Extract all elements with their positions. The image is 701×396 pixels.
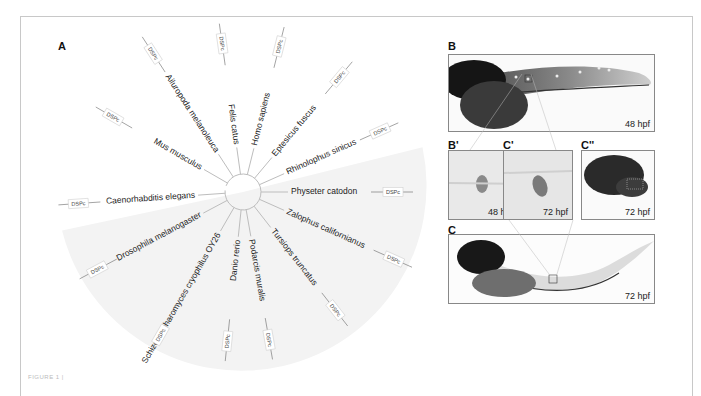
panel-b-label: B [448,40,456,52]
stage-label-c-double-prime: 72 hpf [625,207,650,217]
panel-c-image: 72 hpf [448,234,655,304]
dspc-gene-tag: DSPc [102,108,124,126]
panel-b-image: 48 hpf [448,54,655,132]
taxon-label: Eptesicus fuscus [269,103,318,158]
dspc-gene-tag: DSPc [216,33,228,54]
panel-c-double-prime-image: 72 hpf [581,150,655,220]
dspc-gene-tag: DSPc [222,331,233,352]
stage-label-b: 48 hpf [625,119,650,129]
phylogenetic-tree: Mus musculusDSPcAiluropoda melanoleucaDS… [0,0,440,380]
taxon-label: Mus musculus [152,136,204,172]
dspc-gene-tag: DSPc [273,36,287,58]
svg-text:DSPc: DSPc [71,200,86,207]
dspc-gene-tag: DSPc [68,198,89,208]
taxon-label: Physeter catodon [291,186,357,196]
svg-text:DSPc: DSPc [386,189,400,195]
stage-label-c-prime: 72 hpf [543,207,568,217]
panel-c-prime-image: 72 hpf [503,150,573,220]
taxon-label: Ailuropoda melanoleuca [164,72,222,154]
dspc-gene-tag: DSPc [330,67,350,88]
dspc-gene-tag: DSPc [369,123,391,139]
taxon-label: Homo sapiens [249,91,272,146]
figure-caption: FIGURE 1 | [28,374,64,380]
dspc-gene-tag: DSPc [144,43,162,65]
tree-leaf: Felis catusDSPc [216,24,242,175]
stage-label-c: 72 hpf [625,291,650,301]
taxon-label: Caenorhabditis elegans [106,190,196,206]
dspc-gene-tag: DSPc [383,188,403,197]
taxon-label: Felis catus [226,103,242,145]
